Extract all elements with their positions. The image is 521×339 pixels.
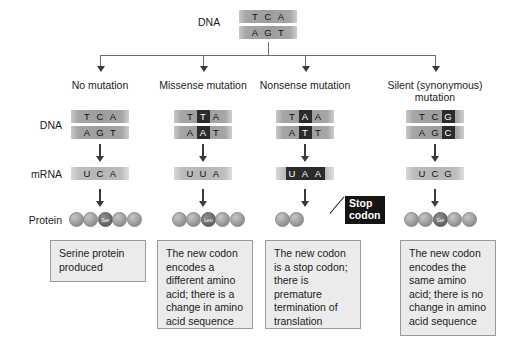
dna-top-base: A bbox=[312, 110, 325, 123]
translation-arrow-head bbox=[96, 201, 104, 207]
amino-acid-label: Ser bbox=[101, 217, 109, 223]
mrna-base: U bbox=[184, 167, 197, 180]
source-dna-top-strand: TCA bbox=[239, 10, 297, 23]
dna-top-base: T bbox=[184, 110, 197, 123]
dna-top-base: A bbox=[299, 110, 312, 123]
dna-sequence-col4: TCGAGC bbox=[406, 110, 464, 139]
mrna-base: U bbox=[416, 167, 429, 180]
amino-acid-bead bbox=[172, 212, 187, 227]
dna-bottom-base: T bbox=[210, 126, 223, 139]
dna-top-base: T bbox=[416, 110, 429, 123]
column-heading-line1: Silent (synonymous) bbox=[365, 79, 505, 91]
column-heading-line1: Nonsense mutation bbox=[235, 79, 375, 91]
dna-bottom-strand: AAT bbox=[174, 126, 232, 139]
mrna-base: A bbox=[299, 167, 312, 180]
dna-sequence-col2: TTAAAT bbox=[174, 110, 232, 139]
amino-acid-bead bbox=[418, 212, 433, 227]
branch-bar bbox=[100, 55, 436, 56]
dna-bottom-base: A bbox=[81, 126, 94, 139]
dna-bottom-base: C bbox=[442, 126, 455, 139]
source-dna-top-base: A bbox=[275, 10, 288, 23]
dna-bottom-base: T bbox=[299, 126, 312, 139]
dna-bottom-strand: AGC bbox=[406, 126, 464, 139]
amino-acid-bead bbox=[230, 212, 245, 227]
branch-drop-arrow bbox=[200, 66, 208, 72]
amino-acid-bead-mutated: Ser bbox=[433, 212, 448, 227]
dna-bottom-strand: AGT bbox=[71, 126, 129, 139]
mrna-base: U bbox=[197, 167, 210, 180]
transcription-arrow-head bbox=[96, 156, 104, 162]
dna-bottom-base: T bbox=[107, 126, 120, 139]
mrna-strand: UCG bbox=[406, 167, 464, 180]
dna-sequence-col3: TAAATT bbox=[276, 110, 334, 139]
source-dna-bottom-base: G bbox=[262, 26, 275, 39]
mrna-strand: UAA bbox=[276, 167, 334, 180]
translation-arrow-head bbox=[199, 201, 207, 207]
description-box-col2: The new codon encodes a different amino … bbox=[157, 240, 253, 329]
dna-bottom-base: A bbox=[416, 126, 429, 139]
amino-acid-label: Leu bbox=[204, 217, 213, 223]
mrna-base: U bbox=[286, 167, 299, 180]
protein-chain-col3 bbox=[275, 212, 304, 227]
dna-top-strand: TCA bbox=[71, 110, 129, 123]
dna-bottom-strand: ATT bbox=[276, 126, 334, 139]
source-dna-sequence: TCA AGT bbox=[239, 10, 297, 39]
mrna-strand: UCA bbox=[71, 167, 129, 180]
amino-acid-bead bbox=[275, 212, 290, 227]
branch-stem bbox=[268, 42, 269, 55]
stop-codon-callout: Stop codon bbox=[345, 196, 385, 224]
amino-acid-bead bbox=[462, 212, 477, 227]
branch-drop-arrow bbox=[97, 66, 105, 72]
dna-top-base: C bbox=[94, 110, 107, 123]
amino-acid-bead bbox=[186, 212, 201, 227]
source-dna-bottom-base: T bbox=[275, 26, 288, 39]
amino-acid-bead bbox=[404, 212, 419, 227]
dna-sequence-col1: TCAAGT bbox=[71, 110, 129, 139]
dna-top-base: A bbox=[107, 110, 120, 123]
dna-top-base: C bbox=[429, 110, 442, 123]
amino-acid-bead-mutated: Leu bbox=[201, 212, 216, 227]
amino-acid-bead bbox=[289, 212, 304, 227]
stop-codon-line1: Stop bbox=[349, 198, 381, 210]
mrna-base: U bbox=[81, 167, 94, 180]
dna-top-base: T bbox=[286, 110, 299, 123]
protein-chain-col1: Ser bbox=[69, 212, 142, 227]
dna-bottom-base: G bbox=[429, 126, 442, 139]
description-box-col4: The new codon encodes the same amino aci… bbox=[400, 240, 496, 336]
mrna-base: A bbox=[107, 167, 120, 180]
row-label-protein: Protein bbox=[0, 214, 62, 226]
amino-acid-bead bbox=[112, 212, 127, 227]
dna-top-strand: TAA bbox=[276, 110, 334, 123]
amino-acid-label: Ser bbox=[436, 217, 444, 223]
row-label-dna: DNA bbox=[10, 119, 62, 131]
amino-acid-bead bbox=[447, 212, 462, 227]
dna-top-base: T bbox=[81, 110, 94, 123]
dna-top-base: G bbox=[442, 110, 455, 123]
description-box-col3: The new codon is a stop codon; there is … bbox=[265, 240, 361, 329]
amino-acid-bead bbox=[127, 212, 142, 227]
dna-bottom-base: A bbox=[197, 126, 210, 139]
row-label-mrna: mRNA bbox=[4, 168, 62, 180]
mutation-diagram: DNA TCA AGT DNA mRNA Protein No mutation… bbox=[0, 0, 521, 339]
mrna-strand: UUA bbox=[174, 167, 232, 180]
mrna-base: A bbox=[210, 167, 223, 180]
dna-bottom-base: T bbox=[312, 126, 325, 139]
branch-drop-arrow bbox=[432, 66, 440, 72]
transcription-arrow-head bbox=[431, 156, 439, 162]
protein-chain-col2: Leu bbox=[172, 212, 245, 227]
source-dna-bottom-base: A bbox=[249, 26, 262, 39]
transcription-arrow-head bbox=[199, 156, 207, 162]
column-heading-3: Nonsense mutation bbox=[235, 79, 375, 91]
mrna-base: A bbox=[312, 167, 325, 180]
mrna-sequence-col1: UCA bbox=[71, 167, 129, 180]
mrna-base: C bbox=[429, 167, 442, 180]
source-dna-bottom-strand: AGT bbox=[239, 26, 297, 39]
mrna-sequence-col3: UAA bbox=[276, 167, 334, 180]
dna-bottom-base: A bbox=[184, 126, 197, 139]
amino-acid-bead bbox=[69, 212, 84, 227]
dna-top-base: T bbox=[197, 110, 210, 123]
stop-codon-line2: codon bbox=[349, 210, 381, 222]
description-box-col1: Serine protein produced bbox=[50, 240, 146, 282]
mrna-base: G bbox=[442, 167, 455, 180]
amino-acid-bead bbox=[215, 212, 230, 227]
